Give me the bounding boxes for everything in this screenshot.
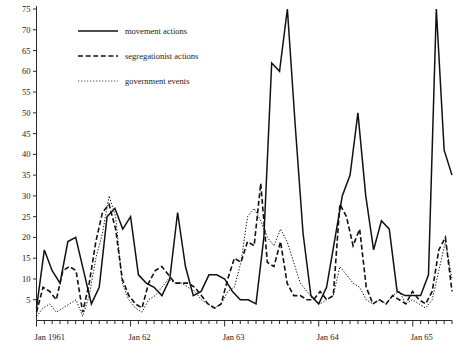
x-tick-label: Jan 65 xyxy=(411,332,433,342)
y-tick-label: 10 xyxy=(22,274,31,284)
y-tick-label: 60 xyxy=(22,66,31,76)
y-tick-label: 20 xyxy=(22,232,31,242)
y-tick-label: 35 xyxy=(22,170,31,180)
y-tick-label: 55 xyxy=(22,87,31,97)
chart-canvas: 51015202530354045505560657075Jan 1961Jan… xyxy=(0,0,456,355)
series-line-government-events xyxy=(37,196,453,316)
line-chart: 51015202530354045505560657075Jan 1961Jan… xyxy=(0,0,456,355)
y-tick-label: 30 xyxy=(22,191,31,201)
series-line-segregationist-actions xyxy=(37,183,453,312)
x-tick-label: Jan 62 xyxy=(129,332,151,342)
legend-label: government events xyxy=(125,76,189,86)
x-tick-label: Jan 63 xyxy=(223,332,245,342)
y-tick-label: 15 xyxy=(22,253,31,263)
y-tick-label: 25 xyxy=(22,212,31,222)
legend-label: segregationist actions xyxy=(125,51,198,61)
y-tick-label: 5 xyxy=(26,295,30,305)
y-tick-label: 40 xyxy=(22,149,31,159)
legend-label: movement actions xyxy=(125,26,187,36)
y-tick-label: 45 xyxy=(22,129,31,139)
y-tick-label: 50 xyxy=(22,108,31,118)
y-tick-label: 65 xyxy=(22,46,31,56)
series-line-movement-actions xyxy=(37,9,453,308)
x-tick-label: Jan 1961 xyxy=(35,332,65,342)
x-tick-label: Jan 64 xyxy=(317,332,340,342)
y-tick-label: 70 xyxy=(22,25,31,35)
y-tick-label: 75 xyxy=(22,4,31,14)
